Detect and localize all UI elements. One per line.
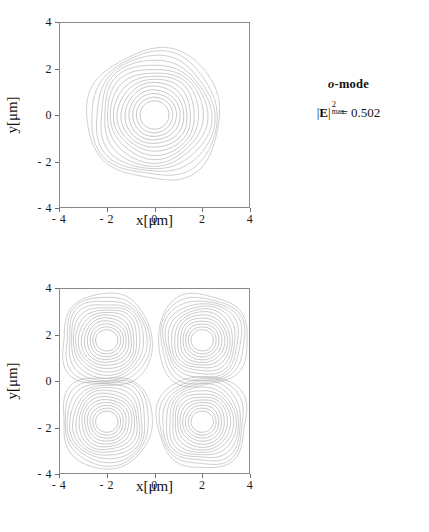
figure-contour-modes: 420- 2- 4- 4- 2024 x[μm] y[μm] o-mode |E… xyxy=(0,0,429,532)
contour-ring xyxy=(85,400,129,444)
contour-ring xyxy=(76,310,137,372)
panel-e-mode: 420- 2- 4- 4- 2024 x[μm] y[μm] e-mode (|… xyxy=(0,266,429,532)
emax-number-o: 0.502 xyxy=(351,105,380,120)
contour-ring xyxy=(188,327,216,354)
mode-suffix-o: -mode xyxy=(335,77,369,91)
y-tick-label: 0 xyxy=(46,374,53,389)
y-tick-mark xyxy=(55,381,59,382)
contour-ring xyxy=(81,315,131,365)
contour-ring xyxy=(178,315,228,365)
contour-ring xyxy=(90,324,123,357)
y-tick-mark xyxy=(55,162,59,163)
y-tick-mark xyxy=(55,69,59,70)
contour-ring xyxy=(191,330,213,351)
plot-area-o-mode: 420- 2- 4- 4- 2024 xyxy=(59,22,250,208)
contour-ring xyxy=(72,305,144,378)
contour-ring xyxy=(188,408,216,435)
contour-ring xyxy=(96,330,118,351)
contour-ring xyxy=(181,318,225,362)
y-tick-label: - 2 xyxy=(38,154,53,169)
contour-ring xyxy=(125,86,184,143)
contour-ring xyxy=(69,385,142,459)
y-tick-label: 2 xyxy=(46,327,53,342)
contour-lines-o-mode xyxy=(59,22,250,208)
plot-area-e-mode: 420- 2- 4- 4- 2024 xyxy=(59,288,250,474)
mode-label-o: o-mode xyxy=(268,77,429,92)
y-tick-mark xyxy=(55,288,59,289)
y-tick-label: 2 xyxy=(46,61,53,76)
y-axis-title-o-mode: y[μm] xyxy=(4,96,21,133)
contour-ring xyxy=(140,101,169,129)
y-tick-mark xyxy=(55,335,59,336)
contour-lines-e-mode xyxy=(59,288,250,474)
x-axis-title-e-mode: x[μm] xyxy=(59,478,250,495)
y-tick-label: 4 xyxy=(46,15,53,30)
contour-ring xyxy=(121,82,187,147)
contour-ring xyxy=(163,381,240,461)
contour-ring xyxy=(156,377,247,468)
contour-ring xyxy=(63,293,153,385)
contour-ring xyxy=(93,408,121,435)
y-tick-mark xyxy=(55,22,59,23)
y-tick-label: - 4 xyxy=(38,467,53,482)
contour-ring xyxy=(108,70,204,164)
contour-ring xyxy=(159,293,247,387)
contour-ring xyxy=(90,405,123,438)
y-tick-label: - 4 xyxy=(38,201,53,216)
y-axis-title-e-mode: y[μm] xyxy=(4,362,21,399)
contour-ring xyxy=(186,324,219,357)
x-axis-title-o-mode: x[μm] xyxy=(59,212,250,229)
contour-ring xyxy=(82,396,132,446)
y-tick-mark xyxy=(55,428,59,429)
contour-ring xyxy=(191,411,213,432)
contour-ring xyxy=(96,411,118,432)
y-tick-mark xyxy=(55,115,59,116)
contour-ring xyxy=(185,405,218,438)
panel-o-mode: 420- 2- 4- 4- 2024 x[μm] y[μm] o-mode |E… xyxy=(0,0,429,266)
y-tick-label: 0 xyxy=(46,108,53,123)
contour-ring xyxy=(97,55,216,171)
emax-value-o-mode: |E|2max = 0.502 xyxy=(268,104,429,121)
contour-ring xyxy=(93,327,121,354)
y-tick-label: 4 xyxy=(46,281,53,296)
e-field-symbol-o: E xyxy=(319,105,328,120)
contour-ring xyxy=(136,97,172,133)
e-subscript-o: max xyxy=(332,107,345,116)
y-tick-label: - 2 xyxy=(38,420,53,435)
annotation-o-mode: o-mode |E|2max = 0.502 xyxy=(268,77,429,121)
contour-ring xyxy=(180,400,224,444)
contour-ring xyxy=(84,318,128,362)
contour-ring xyxy=(178,397,228,447)
contour-ring xyxy=(133,94,177,137)
